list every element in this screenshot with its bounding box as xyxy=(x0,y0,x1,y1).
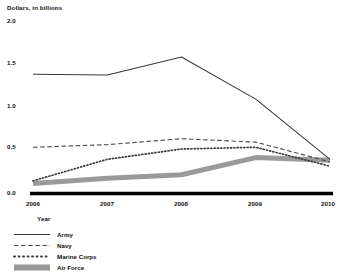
series-line-army xyxy=(33,57,330,159)
series-line-navy xyxy=(33,139,330,162)
legend-item-navy: Navy xyxy=(13,240,163,251)
series-line-air-force xyxy=(33,158,330,184)
legend-swatch-marine-corps-icon xyxy=(13,252,51,261)
y-tick-label-0-0: 0.0 xyxy=(7,189,25,196)
legend-swatch-army-icon xyxy=(13,230,51,239)
x-tick-label-2006: 2006 xyxy=(13,200,53,207)
x-tick-label-2010: 2010 xyxy=(308,200,348,207)
line-chart: Dollars, in billions 2.0 1.5 1.0 0.5 0.0… xyxy=(0,0,348,274)
legend-label-marine-corps: Marine Corps xyxy=(57,252,97,261)
chart-legend: Army Navy Marine Corps xyxy=(13,229,163,273)
x-tick-label-2008: 2008 xyxy=(161,200,201,207)
legend-label-army: Army xyxy=(57,230,73,239)
x-axis-title: Year xyxy=(37,215,50,222)
legend-item-army: Army xyxy=(13,229,163,240)
legend-swatch-air-force-icon xyxy=(13,263,51,272)
legend-item-air-force: Air Force xyxy=(13,262,163,273)
y-tick-label-1-0: 1.0 xyxy=(7,102,25,109)
x-tick-label-2009: 2009 xyxy=(235,200,275,207)
legend-swatch-navy-icon xyxy=(13,241,51,250)
legend-label-navy: Navy xyxy=(57,241,72,250)
y-tick-label-0-5: 0.5 xyxy=(7,143,25,150)
y-tick-label-2-0: 2.0 xyxy=(7,17,25,24)
legend-label-air-force: Air Force xyxy=(57,263,84,272)
y-axis-title: Dollars, in billions xyxy=(7,4,62,11)
x-tick-label-2007: 2007 xyxy=(87,200,127,207)
y-tick-label-1-5: 1.5 xyxy=(7,59,25,66)
series-line-marine-corps xyxy=(33,147,330,181)
legend-item-marine-corps: Marine Corps xyxy=(13,251,163,262)
